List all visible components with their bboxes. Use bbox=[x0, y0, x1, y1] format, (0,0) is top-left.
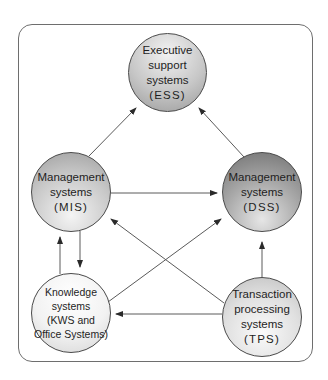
node-label-line: support bbox=[148, 58, 186, 73]
node-label-abbr: (MIS) bbox=[54, 200, 88, 215]
arrow-mis-to-ess bbox=[89, 108, 136, 156]
node-mis: Management systems (MIS) bbox=[31, 152, 111, 232]
node-label-line: systems bbox=[52, 299, 91, 313]
node-label-line: Management bbox=[228, 170, 295, 185]
node-label-abbr: (DSS) bbox=[243, 200, 280, 215]
node-label-line: systems bbox=[50, 185, 92, 200]
node-label-line: Management bbox=[37, 170, 104, 185]
node-label-line: processing bbox=[234, 302, 290, 317]
arrow-tps-to-mis bbox=[111, 219, 224, 303]
node-label-line: systems bbox=[241, 185, 283, 200]
node-label-line: Knowledge bbox=[45, 285, 97, 299]
node-tps: Transaction processing systems (TPS) bbox=[222, 277, 302, 357]
node-label-abbr: (TPS) bbox=[244, 332, 280, 347]
node-label-line: (KWS and bbox=[47, 313, 95, 327]
node-label-line: Transaction bbox=[232, 287, 292, 302]
node-label-line: systems bbox=[241, 317, 283, 332]
node-label-abbr: (ESS) bbox=[149, 88, 186, 103]
node-label-line: systems bbox=[146, 73, 188, 88]
information-systems-diagram: Executive support systems (ESS) Manageme… bbox=[0, 0, 328, 380]
node-label-line: Executive bbox=[143, 43, 193, 58]
node-label-line: Office Systems) bbox=[34, 327, 108, 341]
node-dss: Management systems (DSS) bbox=[222, 152, 302, 232]
node-kws: Knowledge systems (KWS and Office System… bbox=[31, 273, 111, 353]
arrow-kws-to-dss bbox=[108, 219, 221, 302]
arrow-dss-to-ess bbox=[199, 108, 244, 157]
node-ess: Executive support systems (ESS) bbox=[128, 33, 207, 112]
